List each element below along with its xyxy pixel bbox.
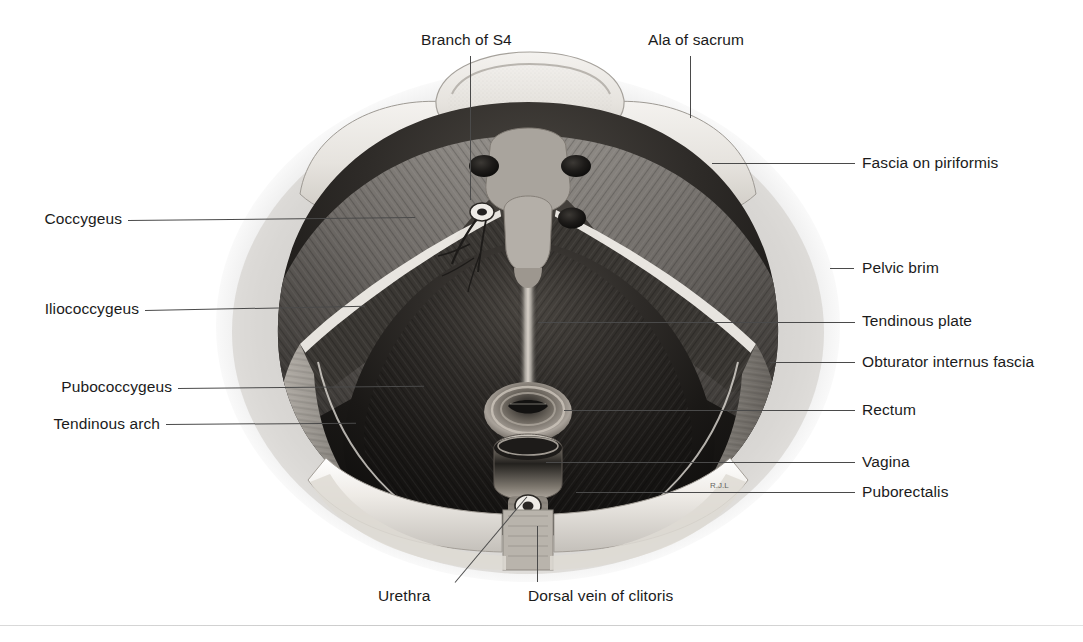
figure-page: R.J.L Branch of S4 Ala of sacrum Fascia … (0, 0, 1083, 642)
label-urethra: Urethra (378, 588, 430, 604)
leader-tendinous-plate (538, 322, 855, 323)
page-bottom-rule (0, 625, 1083, 626)
label-pelvic-brim: Pelvic brim (862, 260, 939, 276)
label-tendinous-plate: Tendinous plate (862, 313, 972, 329)
leader-dorsal-vein-of-clitoris (537, 526, 538, 582)
label-branch-of-s4: Branch of S4 (421, 32, 512, 48)
label-iliococcygeus: Iliococcygeus (0, 301, 139, 317)
leader-branch-of-s4 (470, 56, 471, 200)
label-vagina: Vagina (862, 454, 910, 470)
label-pubococcygeus: Pubococcygeus (0, 379, 172, 395)
leader-ala-of-sacrum (690, 56, 691, 118)
label-ala-of-sacrum: Ala of sacrum (648, 32, 744, 48)
leader-pelvic-brim (830, 268, 854, 269)
svg-text:R.J.L: R.J.L (710, 481, 729, 490)
sacral-foramen (469, 155, 499, 177)
sacral-foramen (558, 208, 586, 229)
label-rectum: Rectum (862, 402, 916, 418)
label-obturator-internus-fascia: Obturator internus fascia (862, 354, 1034, 370)
rectum-opening (484, 382, 572, 442)
artist-signature: R.J.L (710, 481, 729, 490)
leader-rectum (564, 410, 855, 411)
leader-obturator-internus-fascia (770, 362, 855, 363)
leader-vagina (546, 462, 855, 463)
leader-puborectalis (576, 492, 855, 493)
label-coccygeus: Coccygeus (0, 211, 122, 227)
label-tendinous-arch: Tendinous arch (0, 416, 160, 432)
pelvic-floor-illustration: R.J.L (190, 44, 866, 584)
label-puborectalis: Puborectalis (862, 484, 949, 500)
illustration-svg: R.J.L (190, 44, 866, 584)
label-dorsal-vein-of-clitoris: Dorsal vein of clitoris (528, 588, 673, 604)
vagina-opening (494, 434, 562, 500)
sacral-foramen (561, 155, 591, 177)
label-fascia-on-piriformis: Fascia on piriformis (862, 155, 998, 171)
leader-fascia-on-piriformis (712, 163, 855, 164)
